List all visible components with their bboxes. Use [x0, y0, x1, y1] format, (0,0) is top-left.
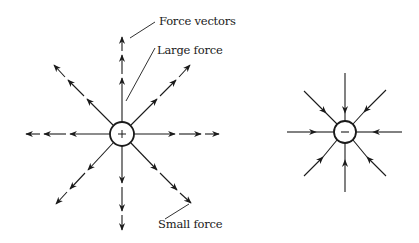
label-large-force: Large force: [157, 45, 223, 57]
vector-in-down-left: [304, 157, 323, 176]
vector-group-up-left: [54, 65, 114, 126]
vector-in-up-right: [364, 90, 386, 112]
negative-charge: [334, 121, 356, 143]
leader-force-vectors: [130, 22, 155, 38]
vector-in-down-right: [367, 157, 386, 176]
vector-group-up-right: [131, 65, 191, 126]
field-diagram: [0, 0, 419, 243]
label-small-force: Small force: [158, 219, 222, 231]
leader-large-force: [126, 48, 155, 101]
label-force-vectors: Force vectors: [159, 16, 236, 28]
vector-group-down-right: [131, 143, 192, 204]
vector-in-up-left: [304, 91, 326, 113]
vector-group-down-left: [56, 143, 114, 205]
positive-charge: [110, 122, 134, 146]
